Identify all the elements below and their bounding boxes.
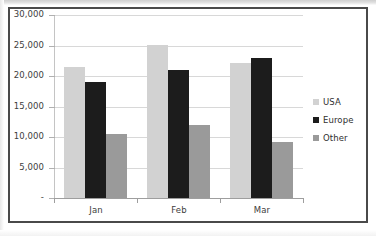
y-axis-label-15000: 15,000 [0, 102, 44, 111]
gridline-25000 [54, 46, 303, 47]
bar-europe-mar [251, 58, 272, 198]
x-axis-label-jan: Jan [56, 205, 136, 215]
chart-frame-border: 30,00025,00020,00015,00010,0005,000- Jan… [8, 7, 368, 223]
legend-label-europe: Europe [323, 115, 354, 125]
legend-swatch-europe [313, 117, 319, 123]
x-axis-line [54, 198, 304, 199]
y-axis-tick-30000 [49, 15, 55, 16]
legend-label-other: Other [323, 133, 348, 143]
bar-usa-jan [64, 67, 85, 198]
legend-item-europe[interactable]: Europe [313, 111, 367, 129]
y-axis-label-25000: 25,000 [0, 41, 44, 50]
plot-area [54, 15, 303, 198]
bar-other-mar [272, 142, 293, 198]
y-axis-label-10000: 10,000 [0, 132, 44, 141]
x-axis-label-feb: Feb [139, 205, 219, 215]
legend-swatch-usa [313, 99, 319, 105]
bar-other-feb [189, 125, 210, 198]
scanned-page-canvas: 30,00025,00020,00015,00010,0005,000- Jan… [0, 0, 376, 236]
chart-inner-container: 30,00025,00020,00015,00010,0005,000- Jan… [10, 9, 366, 221]
y-axis-tick-5000 [49, 168, 55, 169]
y-axis-label-20000: 20,000 [0, 71, 44, 80]
bar-usa-mar [230, 63, 251, 198]
chart-legend: USAEuropeOther [313, 93, 367, 147]
legend-label-usa: USA [323, 97, 341, 107]
scan-artifact-top-band [0, 0, 376, 5]
y-axis-label-0: - [0, 193, 44, 202]
bar-usa-feb [147, 45, 168, 198]
x-axis-tick-3 [303, 198, 304, 203]
legend-swatch-other [313, 135, 319, 141]
bar-other-jan [106, 134, 127, 198]
bar-europe-feb [168, 70, 189, 198]
y-axis-tick-10000 [49, 137, 55, 138]
scan-artifact-bottom-band [0, 230, 376, 236]
legend-item-other[interactable]: Other [313, 129, 367, 147]
y-axis-tick-20000 [49, 76, 55, 77]
x-axis-tick-1 [137, 198, 138, 203]
y-axis-label-5000: 5,000 [0, 163, 44, 172]
legend-item-usa[interactable]: USA [313, 93, 367, 111]
y-axis-label-30000: 30,000 [0, 10, 44, 19]
y-axis-tick-15000 [49, 107, 55, 108]
y-axis-tick-25000 [49, 46, 55, 47]
x-axis-tick-2 [220, 198, 221, 203]
x-axis-tick-0 [54, 198, 55, 203]
x-axis-label-mar: Mar [222, 205, 302, 215]
gridline-30000 [54, 15, 303, 16]
bar-europe-jan [85, 82, 106, 198]
